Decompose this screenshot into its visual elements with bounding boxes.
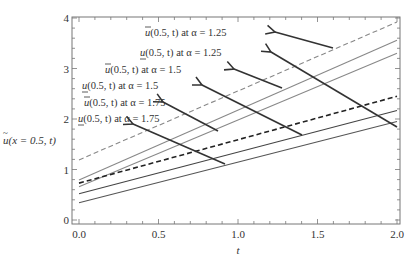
x-axis-label: t — [236, 244, 240, 256]
label-ulow-alpha-1.75: u(0.5, t) at α = 1.75 — [78, 113, 159, 125]
y-tick-label: 4 — [64, 12, 70, 24]
annotation-arrow — [234, 69, 282, 88]
label-ubar-alpha-1.75: u(0.5, t) at α = 1.75 — [84, 97, 165, 109]
x-tick-label: 0.0 — [72, 228, 86, 240]
y-tick-labels: 0 1 2 3 4 — [64, 12, 70, 226]
annotation-arrow — [271, 52, 397, 127]
x-tick-label: 2.0 — [390, 228, 404, 240]
x-tick-label: 1.5 — [311, 228, 325, 240]
series-line — [79, 40, 397, 180]
y-tick-label: 3 — [64, 63, 70, 75]
label-ulow-alpha-1.5: u(0.5, t) at α = 1.5 — [82, 80, 158, 92]
annotation-arrow — [202, 85, 302, 135]
annotation-labels: u(0.5, t) at α = 1.25 u(0.5, t) at α = 1… — [78, 27, 226, 125]
y-tick-label: 1 — [64, 164, 70, 176]
label-ubar-alpha-1.5: u(0.5, t) at α = 1.5 — [105, 64, 181, 76]
chart: 0.0 0.5 1.0 1.5 2.0 0 1 2 3 4 t u(x = 0.… — [0, 0, 419, 262]
x-tick-label: 0.5 — [152, 228, 166, 240]
tilde-mark: ~ — [3, 128, 8, 138]
y-axis-label-args: (x = 0.5, t) — [9, 134, 57, 147]
y-axis-label: u(x = 0.5, t) — [3, 134, 56, 147]
series-line — [79, 122, 397, 203]
x-tick-labels: 0.0 0.5 1.0 1.5 2.0 — [72, 228, 404, 240]
annotation-arrow — [275, 32, 333, 48]
label-ubar-alpha-1.25: u(0.5, t) at α = 1.25 — [145, 27, 226, 39]
annotation-arrow — [163, 102, 218, 131]
x-tick-label: 1.0 — [231, 228, 245, 240]
y-tick-label: 2 — [64, 113, 70, 125]
y-tick-label: 0 — [64, 214, 70, 226]
label-ulow-alpha-1.25: u(0.5, t) at α = 1.25 — [140, 47, 221, 59]
